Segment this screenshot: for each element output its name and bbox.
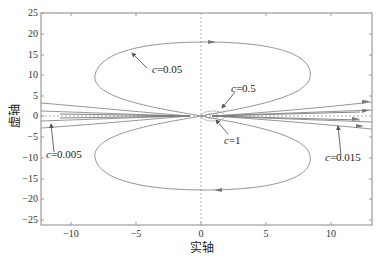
svg-text:−5: −5	[131, 228, 142, 239]
svg-text:25: 25	[28, 7, 38, 18]
svg-text:−25: −25	[22, 214, 38, 225]
label-c0.015: c=0.015	[325, 151, 361, 163]
x-axis-title: 实轴	[190, 240, 214, 255]
svg-text:15: 15	[28, 49, 38, 60]
svg-text:5: 5	[33, 90, 38, 101]
root-locus-chart: 25 20 15 10 5 0 −5 −10 −15 −20 −25 −10 −…	[0, 0, 379, 259]
svg-text:−20: −20	[22, 193, 38, 204]
svg-text:20: 20	[28, 28, 38, 39]
svg-text:0: 0	[33, 110, 38, 121]
label-c1: c=1	[224, 134, 241, 146]
svg-text:10: 10	[326, 228, 336, 239]
x-tick-labels: −10 −5 0 5 10	[63, 228, 336, 239]
svg-text:−10: −10	[22, 152, 38, 163]
y-tick-labels: 25 20 15 10 5 0 −5 −10 −15 −20 −25	[22, 7, 38, 225]
svg-text:5: 5	[264, 228, 269, 239]
svg-text:−15: −15	[22, 173, 38, 184]
svg-text:−10: −10	[63, 228, 79, 239]
label-c0.005: c=0.005	[46, 148, 82, 160]
label-c0.5: c=0.5	[231, 82, 256, 94]
svg-text:10: 10	[28, 69, 38, 80]
svg-text:0: 0	[199, 228, 204, 239]
label-c0.05: c=0.05	[152, 63, 183, 75]
y-axis-title: 虚轴	[7, 104, 22, 128]
svg-text:−5: −5	[27, 131, 38, 142]
